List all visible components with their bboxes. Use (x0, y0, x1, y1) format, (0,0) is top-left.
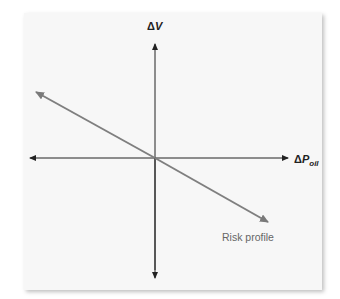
y-axis-label: ΔV (147, 20, 162, 32)
risk-profile-diagram (0, 0, 340, 299)
risk-profile-line (155, 158, 268, 222)
x-axis-label: ΔPoil (294, 153, 319, 168)
risk-profile-label: Risk profile (222, 231, 274, 243)
